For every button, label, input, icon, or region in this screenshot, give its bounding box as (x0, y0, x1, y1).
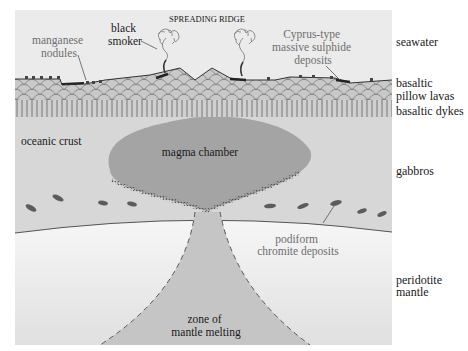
dykes-side-label: basaltic dykes (396, 104, 464, 118)
black-smoker-label: black smoker (108, 22, 142, 47)
spreading-ridge-label: SPREADING RIDGE (169, 14, 245, 24)
magma-chamber-label: magma chamber (162, 146, 238, 159)
seawater-side-label: seawater (396, 35, 438, 49)
ocean-crust-diagram: SPREADING RIDGE manganese nodules black … (0, 0, 468, 351)
pillow-lavas-side-label: basaltic pillow lavas (396, 76, 455, 103)
oceanic-crust-label: oceanic crust (21, 135, 82, 147)
gabbros-side-label: gabbros (396, 164, 434, 178)
mantle-side-label: peridotite mantle (396, 273, 445, 299)
basaltic-dykes-layer (15, 100, 392, 117)
